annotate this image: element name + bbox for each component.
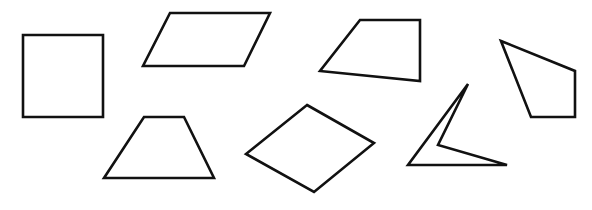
concave-quadrilateral-shape [408,84,507,165]
trapezoid-shape [104,117,214,178]
quadrilateral-right-angle-shape [320,20,420,81]
shapes-diagram [0,0,592,210]
rhombus-shape [246,105,374,192]
square-shape [23,35,103,117]
kite-like-shape [501,41,575,117]
shapes-svg [0,0,592,210]
parallelogram-shape [143,13,270,66]
